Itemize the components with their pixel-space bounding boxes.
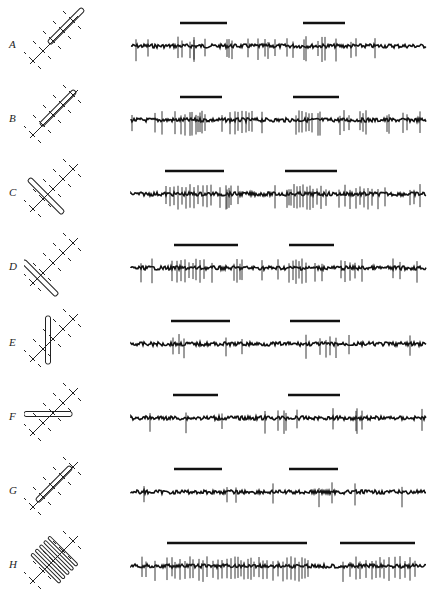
panel-a: A [0,0,432,76]
panel-c: C [0,148,432,224]
spike-trace [0,0,432,76]
panel-f: F [0,372,432,448]
spike-trace [0,520,432,596]
panel-b: B [0,74,432,150]
panel-e: E [0,298,432,374]
spike-trace [0,222,432,298]
panel-g: G [0,446,432,522]
spike-trace [0,74,432,150]
panel-h: H [0,520,432,596]
spike-trace [0,298,432,374]
spike-trace [0,148,432,224]
panel-d: D [0,222,432,298]
spike-trace [0,446,432,522]
spike-trace [0,372,432,448]
